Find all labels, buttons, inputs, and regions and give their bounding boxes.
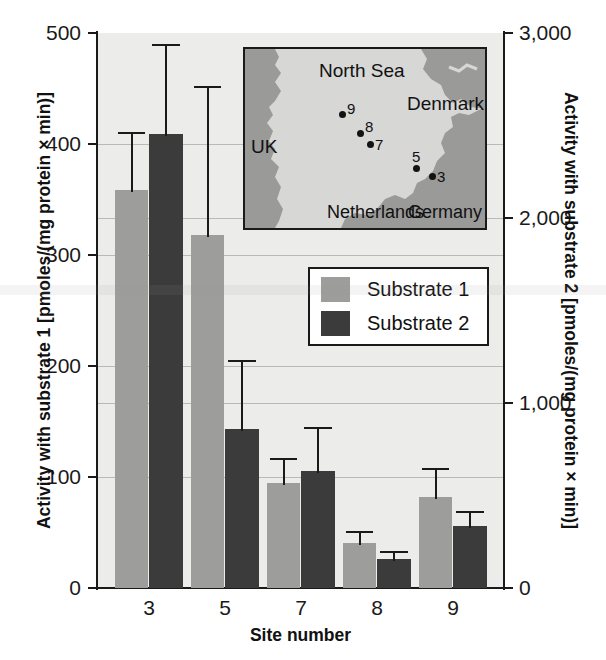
errorbar-site8-substrate1 [346, 531, 373, 545]
map-site-dot-3 [429, 173, 436, 180]
errorbar-site5-substrate1 [194, 86, 221, 237]
legend-item-substrate-2: Substrate 2 [321, 309, 469, 337]
map-site-dot-8 [357, 130, 364, 137]
map-label-uk: UK [251, 137, 277, 156]
map-site-label-8: 8 [365, 119, 373, 134]
legend-label-substrate-2: Substrate 2 [367, 312, 469, 335]
map-site-dot-7 [367, 141, 374, 148]
map-label-north-sea: North Sea [319, 61, 405, 80]
y-tick-label-right-0: 0 [519, 577, 531, 598]
y-tick-right-0 [504, 587, 513, 589]
x-tick-label-9: 9 [423, 597, 483, 618]
x-tick-label-3: 3 [119, 597, 179, 618]
map-site-dot-9 [339, 111, 346, 118]
legend-swatch-substrate-1 [321, 277, 350, 302]
legend-swatch-substrate-2 [321, 311, 350, 336]
y-tick-left-300 [88, 254, 97, 256]
errorbar-site3-substrate2 [152, 44, 180, 136]
x-tick-label-5: 5 [195, 597, 255, 618]
bar-site8-substrate1 [343, 543, 376, 588]
legend-item-substrate-1: Substrate 1 [321, 275, 469, 303]
x-axis-title: Site number [97, 625, 504, 646]
inset-map: North Sea Denmark UK Netherlands Germany… [243, 47, 487, 230]
y-axis-left-title: Activity with substrate 1 [pmoles/(mg pr… [34, 61, 55, 561]
x-tick-label-7: 7 [271, 597, 331, 618]
y-tick-left-400 [88, 143, 97, 145]
errorbar-site5-substrate2 [228, 360, 256, 431]
y-tick-right-2000 [504, 217, 513, 219]
errorbar-site8-substrate2 [380, 551, 408, 561]
bar-site5-substrate2 [225, 429, 259, 588]
bar-site3-substrate2 [149, 134, 183, 588]
bar-site3-substrate1 [115, 190, 148, 588]
bar-site7-substrate2 [301, 471, 335, 588]
errorbar-site3-substrate1 [118, 132, 145, 192]
map-label-germany: Germany [408, 203, 482, 221]
y-tick-left-100 [88, 476, 97, 478]
bar-site5-substrate1 [191, 235, 224, 588]
y-axis-left-line [96, 31, 98, 590]
map-site-dot-5 [413, 165, 420, 172]
y-tick-label-left-0: 0 [18, 577, 81, 598]
y-tick-left-500 [88, 32, 97, 34]
y-tick-right-3000 [504, 32, 513, 34]
y-tick-label-left-500: 500 [18, 22, 81, 43]
y-tick-right-1000 [504, 402, 513, 404]
legend: Substrate 1 Substrate 2 [308, 267, 489, 346]
y-tick-left-0 [88, 587, 97, 589]
map-site-label-3: 3 [437, 169, 445, 184]
bar-site8-substrate2 [377, 559, 411, 588]
y-tick-label-right-3000: 3,000 [519, 22, 572, 43]
errorbar-site9-substrate2 [456, 511, 484, 528]
y-axis-right-title: Activity with substrate 2 [pmoles/(mg pr… [560, 61, 581, 561]
errorbar-site7-substrate1 [270, 458, 297, 485]
map-label-denmark: Denmark [407, 94, 484, 113]
bar-site9-substrate1 [419, 497, 452, 588]
map-site-label-7: 7 [375, 137, 383, 152]
bar-site9-substrate2 [453, 526, 487, 588]
errorbar-site7-substrate2 [304, 427, 332, 473]
y-axis-right-line [503, 31, 505, 590]
map-site-label-9: 9 [347, 101, 355, 116]
bar-site7-substrate1 [267, 483, 300, 588]
map-site-label-5: 5 [412, 149, 420, 164]
errorbar-site9-substrate1 [422, 468, 449, 499]
x-tick-label-8: 8 [347, 597, 407, 618]
y-tick-left-200 [88, 365, 97, 367]
figure-bar-chart-with-inset-map: 500 400 300 200 100 0 3,000 2,000 1,000 … [0, 0, 606, 660]
legend-label-substrate-1: Substrate 1 [367, 278, 469, 301]
